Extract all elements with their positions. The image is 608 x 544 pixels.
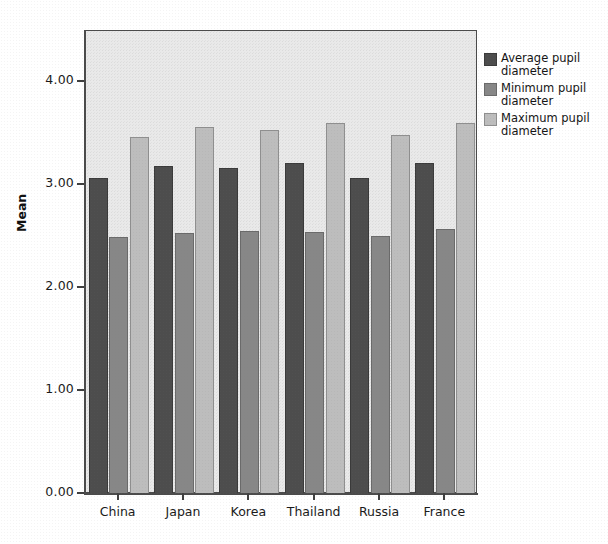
bar: [326, 123, 345, 494]
x-tick-label: Korea: [231, 504, 266, 519]
x-tick-label: China: [100, 504, 136, 519]
bar: [109, 237, 128, 494]
bar: [391, 135, 410, 494]
x-axis-line: [84, 493, 478, 495]
y-tick-mark: [77, 80, 84, 82]
bar: [154, 166, 173, 494]
plot-area: [85, 30, 477, 493]
y-tick-label: 0.00: [45, 484, 74, 499]
x-tick-mark: [313, 493, 315, 500]
legend-item-label: Maximum pupil diameter: [501, 112, 597, 137]
legend-item-label: Average pupil diameter: [501, 52, 597, 77]
y-tick-label: 1.00: [45, 381, 74, 396]
bar: [130, 137, 149, 494]
bar: [219, 168, 238, 494]
y-tick-label: 3.00: [45, 175, 74, 190]
y-tick-mark: [77, 183, 84, 185]
legend: Average pupil diameter Minimum pupil dia…: [484, 52, 602, 142]
legend-item-label: Minimum pupil diameter: [501, 82, 597, 107]
bar: [350, 178, 369, 494]
bar: [175, 233, 194, 494]
x-tick-label: Thailand: [287, 504, 341, 519]
legend-swatch-icon: [484, 53, 497, 66]
x-tick-label: France: [424, 504, 466, 519]
bar-chart: 0.001.002.003.004.00 ChinaJapanKoreaThai…: [0, 0, 608, 544]
y-tick-mark: [77, 492, 84, 494]
y-tick-mark: [77, 389, 84, 391]
bar: [456, 123, 475, 494]
bar: [285, 163, 304, 494]
legend-swatch-icon: [484, 113, 497, 126]
y-tick-mark: [77, 286, 84, 288]
y-tick-label: 4.00: [45, 72, 74, 87]
y-tick-label: 2.00: [45, 278, 74, 293]
x-tick-mark: [182, 493, 184, 500]
bar: [371, 236, 390, 494]
bar: [305, 232, 324, 494]
x-tick-label: Russia: [359, 504, 399, 519]
bar: [436, 229, 455, 494]
legend-item[interactable]: Minimum pupil diameter: [484, 82, 602, 107]
x-tick-mark: [443, 493, 445, 500]
x-tick-mark: [247, 493, 249, 500]
x-tick-label: Japan: [166, 504, 201, 519]
bars-layer: [86, 31, 478, 494]
bar: [89, 178, 108, 494]
x-tick-mark: [117, 493, 119, 500]
legend-swatch-icon: [484, 83, 497, 96]
legend-item[interactable]: Maximum pupil diameter: [484, 112, 602, 137]
bar: [195, 127, 214, 494]
y-axis-line: [84, 30, 86, 494]
bar: [260, 130, 279, 494]
x-tick-mark: [378, 493, 380, 500]
y-axis-title: Mean: [14, 194, 29, 232]
legend-item[interactable]: Average pupil diameter: [484, 52, 602, 77]
bar: [415, 163, 434, 494]
bar: [240, 231, 259, 494]
